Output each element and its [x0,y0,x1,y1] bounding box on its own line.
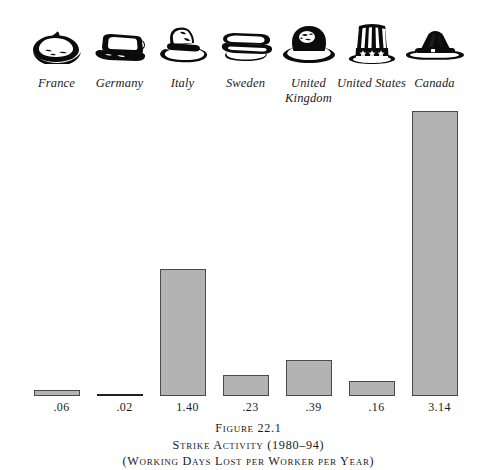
bar-sweden [223,375,269,396]
bar-germany [97,394,143,396]
bar-united-states [349,381,395,396]
bar-italy [160,269,206,396]
caption-line-figure-number: Figure 22.1 [0,420,497,437]
figure-22-1: France Germany [0,0,497,470]
bar-plot-area [0,0,497,396]
caption-line-subtitle: (Working Days Lost per Worker per Year) [0,453,497,470]
bar-canada [412,111,458,396]
bar-france [34,390,80,396]
bar-united-kingdom [286,360,332,396]
caption-line-title: Strike Activity (1980–94) [0,437,497,454]
figure-caption: Figure 22.1 Strike Activity (1980–94) (W… [0,420,497,470]
value-label-canada: 3.14 [403,400,476,415]
